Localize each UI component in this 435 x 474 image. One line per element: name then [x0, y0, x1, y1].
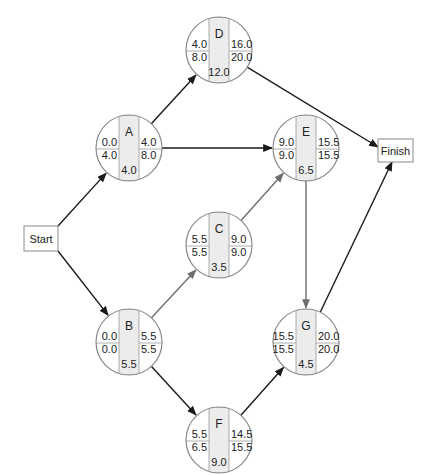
node-label: E	[302, 125, 310, 139]
node-label: B	[125, 319, 133, 333]
early-finish: 15.5	[318, 136, 339, 148]
duration: 4.0	[121, 164, 136, 176]
late-start: 5.5	[192, 246, 207, 258]
edge-a-to-d	[151, 75, 196, 124]
early-finish: 16.0	[231, 38, 252, 50]
late-start: 4.0	[102, 149, 117, 161]
activity-node-b: B0.00.05.55.55.5	[96, 309, 162, 375]
node-label: F	[215, 417, 222, 431]
edge-c-to-e	[241, 173, 283, 220]
activity-node-g: G15.515.520.020.04.5	[273, 309, 340, 375]
early-start: 5.5	[192, 428, 207, 440]
early-start: 0.0	[102, 136, 117, 148]
late-finish: 20.0	[231, 51, 252, 63]
duration: 3.5	[211, 261, 226, 273]
edge-g-to-finish	[320, 162, 392, 312]
node-label: C	[215, 222, 224, 236]
activity-node-a: A0.04.04.08.04.0	[96, 115, 162, 181]
early-start: 5.5	[192, 233, 207, 245]
edge-f-to-g	[241, 367, 284, 415]
edge-b-to-f	[151, 366, 196, 415]
early-start: 9.0	[279, 136, 294, 148]
late-finish: 9.0	[231, 246, 246, 258]
start-label: Start	[29, 233, 52, 245]
late-start: 15.5	[273, 343, 294, 355]
start-box: Start	[24, 226, 58, 251]
activity-node-f: F5.56.514.515.59.0	[186, 407, 252, 473]
early-start: 4.0	[192, 38, 207, 50]
duration: 12.0	[208, 66, 229, 78]
late-start: 8.0	[192, 51, 207, 63]
edge-start-to-b	[58, 251, 108, 315]
node-label: G	[301, 319, 310, 333]
early-finish: 5.5	[141, 330, 156, 342]
early-start: 0.0	[102, 330, 117, 342]
late-finish: 5.5	[141, 343, 156, 355]
early-start: 15.5	[273, 330, 294, 342]
activity-node-e: E9.09.015.515.56.5	[273, 115, 339, 181]
late-start: 6.5	[192, 441, 207, 453]
nodes-layer: D4.08.016.020.012.0A0.04.04.08.04.0E9.09…	[96, 17, 339, 473]
late-finish: 20.0	[318, 343, 339, 355]
finish-label: Finish	[381, 145, 410, 157]
node-label: A	[125, 125, 133, 139]
duration: 5.5	[121, 358, 136, 370]
early-finish: 4.0	[141, 136, 156, 148]
early-finish: 14.5	[231, 428, 252, 440]
activity-node-d: D4.08.016.020.012.0	[186, 17, 252, 83]
duration: 9.0	[211, 456, 226, 468]
late-finish: 8.0	[141, 149, 156, 161]
early-finish: 9.0	[231, 233, 246, 245]
late-start: 0.0	[102, 343, 117, 355]
node-label: D	[215, 27, 224, 41]
duration: 6.5	[298, 164, 313, 176]
duration: 4.5	[298, 358, 313, 370]
late-start: 9.0	[279, 149, 294, 161]
late-finish: 15.5	[231, 441, 252, 453]
late-finish: 15.5	[318, 149, 339, 161]
edge-start-to-a	[58, 173, 106, 226]
edge-b-to-c	[151, 270, 195, 318]
network-diagram: D4.08.016.020.012.0A0.04.04.08.04.0E9.09…	[0, 0, 435, 474]
early-finish: 20.0	[318, 330, 339, 342]
finish-box: Finish	[378, 139, 413, 162]
activity-node-c: C5.55.59.09.03.5	[186, 212, 252, 278]
